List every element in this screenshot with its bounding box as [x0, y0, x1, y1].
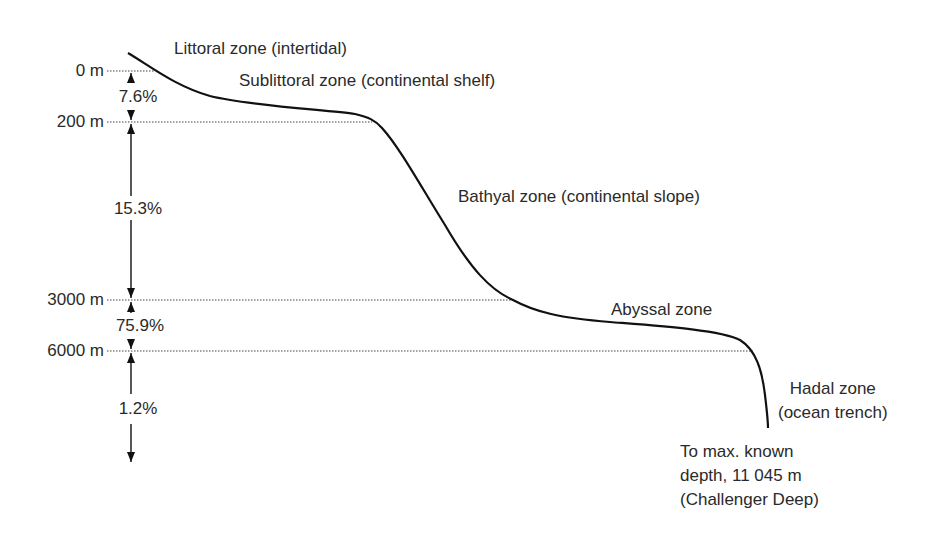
- zone-label-bathyal: Bathyal zone (continental slope): [458, 186, 700, 207]
- zone-label-abyssal: Abyssal zone: [611, 299, 712, 320]
- zone-label-littoral: Littoral zone (intertidal): [174, 38, 347, 59]
- depth-label-3000m: 3000 m: [0, 289, 104, 310]
- zone-label-sublittoral: Sublittoral zone (continental shelf): [239, 70, 495, 91]
- seafloor-profile-curve: [128, 53, 768, 428]
- zone-label-hadal: Hadal zone (ocean trench): [778, 377, 888, 425]
- depth-label-6000m: 6000 m: [0, 340, 104, 361]
- percent-label-hadal: 1.2%: [98, 398, 178, 419]
- max-depth-note: To max. known depth, 11 045 m (Challenge…: [680, 440, 819, 512]
- depth-label-0m: 0 m: [0, 60, 104, 81]
- percent-label-abyssal: 75.9%: [100, 315, 180, 336]
- percent-label-slope: 15.3%: [98, 198, 178, 219]
- percent-label-shelf: 7.6%: [98, 86, 178, 107]
- depth-label-200m: 200 m: [0, 111, 104, 132]
